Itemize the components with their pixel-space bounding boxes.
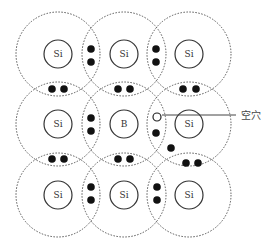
atom-si: Si (110, 40, 138, 68)
atom-label: Si (119, 190, 128, 200)
electron-dot (48, 155, 56, 163)
p-type-silicon-lattice-diagram: SiSiSiSiBSiSiSiSi 空穴 (0, 0, 274, 251)
atom-label: Si (184, 119, 193, 129)
electron-dot (48, 85, 56, 93)
hole-label: 空穴 (241, 109, 261, 121)
electron-dot (60, 85, 68, 93)
electron-dot (126, 155, 134, 163)
atom-si: Si (175, 181, 203, 209)
electron-dot (87, 127, 95, 135)
atom-si: Si (44, 181, 72, 209)
electron-dot (87, 196, 95, 204)
electron-dot (152, 58, 160, 66)
electron-dot (87, 114, 95, 122)
electron-dot (192, 85, 200, 93)
atom-label: Si (53, 49, 62, 59)
electron-dot (87, 58, 95, 66)
electron-dot (114, 85, 122, 93)
atom-label: Si (53, 190, 62, 200)
atom-label: Si (119, 49, 128, 59)
electron-dot (87, 45, 95, 53)
atom-label: Si (184, 190, 193, 200)
electron-dot (179, 85, 187, 93)
hole-group: 空穴 (153, 109, 261, 121)
electron-dot (167, 144, 175, 152)
atom-si: Si (44, 110, 72, 138)
atom-label: Si (53, 119, 62, 129)
electron-dot (153, 183, 161, 191)
atom-si: Si (175, 40, 203, 68)
electron-dot (152, 45, 160, 53)
electron-dot (152, 129, 160, 137)
atom-si: Si (175, 110, 203, 138)
electron-dot (60, 155, 68, 163)
electron-dot (87, 183, 95, 191)
electron-dot (114, 155, 122, 163)
atom-si: Si (110, 181, 138, 209)
electron-dot (182, 159, 190, 167)
electron-dot (194, 159, 202, 167)
electron-dot (126, 85, 134, 93)
electron-dot (153, 196, 161, 204)
hole-marker (153, 113, 161, 121)
atom-label: B (121, 119, 128, 129)
atom-group: SiSiSiSiBSiSiSiSi (44, 40, 203, 209)
atom-si: Si (44, 40, 72, 68)
atom-b: B (110, 110, 138, 138)
atom-label: Si (184, 49, 193, 59)
